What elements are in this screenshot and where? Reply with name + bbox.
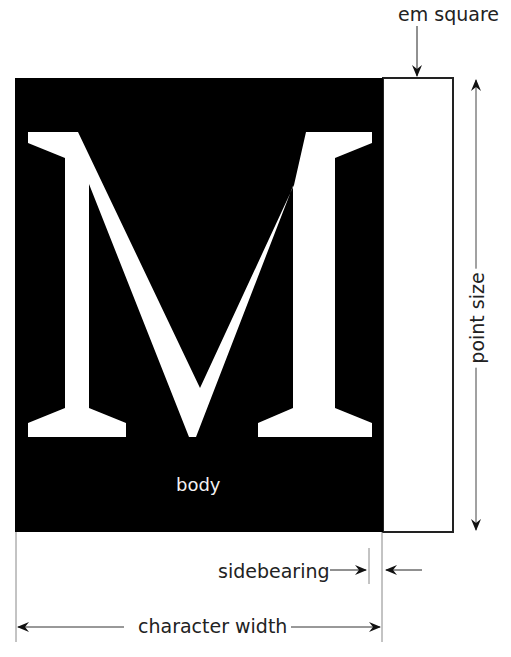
- character-width-label: character width: [134, 615, 291, 637]
- sidebearing-label: sidebearing: [218, 560, 330, 582]
- body-label: body: [176, 474, 221, 495]
- em-square-label: em square: [398, 3, 499, 25]
- type-anatomy-diagram: [0, 0, 511, 657]
- em-square-outline: [383, 78, 453, 532]
- point-size-label: point size: [465, 268, 487, 367]
